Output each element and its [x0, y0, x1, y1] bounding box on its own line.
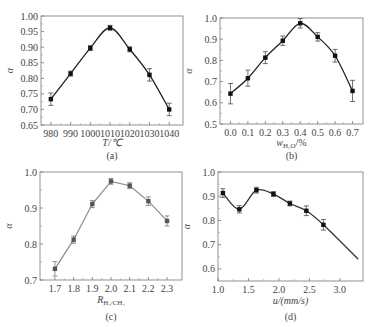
x-tick-label: 0.2 — [259, 127, 272, 138]
subfigure-caption: (a) — [106, 150, 117, 162]
y-tick-label: 0.8 — [25, 239, 38, 250]
x-tick-label: 1.0 — [212, 284, 225, 295]
x-tick-label: 2.0 — [273, 284, 286, 295]
plot-frame — [40, 172, 182, 280]
data-point-marker — [246, 76, 250, 80]
data-point-marker — [298, 21, 302, 25]
data-point-marker — [315, 35, 319, 39]
y-tick-label: 0.7 — [205, 76, 218, 87]
data-point-marker — [254, 188, 258, 192]
x-tick-label: 1040 — [159, 128, 179, 139]
data-point-marker — [271, 192, 275, 196]
x-tick-label: 1.5 — [242, 284, 255, 295]
data-line — [223, 189, 358, 259]
x-tick-label: 0.6 — [329, 127, 342, 138]
data-point-marker — [237, 207, 241, 211]
data-point-marker — [333, 54, 337, 58]
y-tick-label: 0.8 — [205, 55, 218, 66]
chart-figure: 0.650.700.750.800.850.900.951.0098099010… — [0, 0, 377, 327]
chart-a: 0.650.700.750.800.850.900.951.0098099010… — [4, 11, 183, 163]
data-point-marker — [109, 179, 113, 183]
y-tick-label: 0.90 — [21, 42, 39, 53]
x-tick-label: 1.7 — [49, 283, 62, 294]
y-axis-label: α — [3, 223, 14, 229]
data-point-marker — [350, 89, 354, 93]
x-axis-label: wH₂O/% — [276, 137, 306, 150]
subfigure-caption: (c) — [105, 311, 116, 323]
data-point-marker — [263, 55, 267, 59]
x-tick-label: 2.0 — [105, 283, 118, 294]
subfigure-caption: (b) — [286, 150, 298, 162]
subfigure-caption: (d) — [285, 311, 297, 323]
y-tick-label: 0.95 — [21, 26, 39, 37]
data-point-marker — [147, 73, 151, 77]
data-line — [55, 181, 167, 268]
x-tick-label: 980 — [43, 128, 58, 139]
y-axis-label: α — [181, 223, 192, 229]
x-tick-label: 1030 — [139, 128, 159, 139]
y-tick-label: 0.75 — [21, 88, 39, 99]
y-tick-label: 1.0 — [25, 167, 38, 178]
plot-frame — [41, 16, 183, 125]
y-tick-label: 0.80 — [21, 73, 39, 84]
data-point-marker — [321, 223, 325, 227]
y-tick-label: 0.9 — [205, 34, 218, 45]
y-axis-label: α — [183, 68, 194, 74]
chart-d: 0.60.70.80.91.01.01.52.02.53.0αu/(mm/s)(… — [181, 167, 363, 324]
data-point-marker — [288, 201, 292, 205]
x-axis-label: RH₂/CH₄ — [96, 294, 125, 307]
data-point-marker — [167, 107, 171, 111]
x-tick-label: 1.9 — [86, 283, 99, 294]
x-tick-label: 3.0 — [334, 284, 347, 295]
data-point-marker — [165, 219, 169, 223]
data-line — [230, 23, 352, 93]
x-tick-label: 2.3 — [161, 283, 174, 294]
y-tick-label: 0.9 — [25, 203, 38, 214]
y-tick-label: 0.7 — [203, 239, 216, 250]
y-tick-label: 0.8 — [203, 215, 216, 226]
data-point-marker — [281, 38, 285, 42]
y-tick-label: 0.9 — [203, 191, 216, 202]
x-tick-label: 1020 — [120, 128, 140, 139]
x-tick-label: 1000 — [80, 128, 100, 139]
y-tick-label: 0.70 — [21, 104, 39, 115]
y-tick-label: 0.85 — [21, 57, 39, 68]
x-tick-label: 0.0 — [224, 127, 237, 138]
y-tick-label: 0.7 — [25, 275, 38, 286]
data-point-marker — [128, 47, 132, 51]
chart-b: 0.50.60.70.80.91.00.00.10.20.30.40.50.60… — [183, 13, 363, 163]
data-point-marker — [108, 26, 112, 30]
data-point-marker — [88, 46, 92, 50]
y-tick-label: 0.5 — [205, 119, 218, 130]
y-axis-label: α — [4, 67, 15, 73]
y-tick-label: 1.00 — [21, 11, 39, 22]
chart-c: 0.70.80.91.01.71.81.92.02.12.22.3αRH₂/CH… — [3, 167, 182, 324]
data-point-marker — [146, 199, 150, 203]
y-tick-label: 0.6 — [203, 263, 216, 274]
data-point-marker — [49, 97, 53, 101]
plot-frame — [220, 18, 363, 124]
data-point-marker — [90, 202, 94, 206]
data-point-marker — [53, 267, 57, 271]
x-tick-label: 0.7 — [346, 127, 359, 138]
x-axis-label: u/(mm/s) — [273, 295, 309, 307]
data-point-marker — [71, 237, 75, 241]
data-point-marker — [127, 183, 131, 187]
x-tick-label: 0.5 — [311, 127, 324, 138]
y-tick-label: 0.65 — [21, 120, 39, 131]
data-point-marker — [68, 71, 72, 75]
data-point-marker — [221, 191, 225, 195]
x-tick-label: 0.1 — [242, 127, 255, 138]
data-point-marker — [304, 209, 308, 213]
data-point-marker — [228, 91, 232, 95]
x-tick-label: 2.2 — [142, 283, 155, 294]
x-tick-label: 2.5 — [303, 284, 316, 295]
y-tick-label: 0.6 — [205, 97, 218, 108]
x-tick-label: 990 — [63, 128, 78, 139]
x-tick-label: 1.8 — [67, 283, 80, 294]
y-tick-label: 1.0 — [205, 13, 218, 24]
x-tick-label: 2.1 — [123, 283, 136, 294]
plot-frame — [218, 172, 363, 281]
y-tick-label: 1.0 — [203, 167, 216, 178]
x-axis-label: T/℃ — [102, 137, 123, 148]
